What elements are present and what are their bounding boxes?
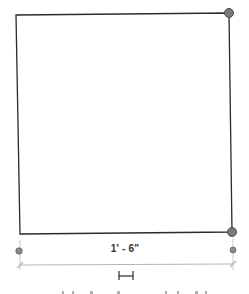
bottom-right-grip-icon[interactable] [228, 228, 237, 237]
dimension-line [20, 264, 233, 265]
rectangle-outline[interactable] [16, 13, 232, 234]
horizontal-span-icon[interactable] [119, 271, 133, 280]
left-witness-grip-icon[interactable] [16, 248, 22, 254]
dimension-label[interactable]: 1' - 6" [95, 243, 155, 254]
right-witness-grip-icon[interactable] [230, 247, 236, 253]
top-right-grip-icon[interactable] [225, 9, 234, 18]
